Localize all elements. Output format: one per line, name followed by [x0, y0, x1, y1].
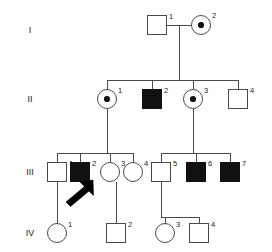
female-circle-unaffected[interactable] — [156, 224, 175, 243]
generation-label-I: I — [29, 25, 32, 35]
individual-III-6[interactable]: 6 — [187, 159, 213, 182]
individual-II-1[interactable]: 1 — [98, 86, 123, 109]
female-circle-unaffected[interactable] — [48, 224, 67, 243]
generation-labels: I II III IV — [26, 25, 35, 238]
individual-IV-3[interactable]: 3 — [156, 220, 181, 243]
male-square-unaffected[interactable] — [107, 224, 126, 243]
individual-II-3[interactable]: 3 — [184, 86, 209, 109]
individual-II-4[interactable]: 4 — [229, 86, 255, 109]
individual-id-label: 1 — [68, 220, 72, 229]
individual-id-label: 4 — [144, 159, 148, 168]
male-square-affected[interactable] — [187, 163, 206, 182]
female-circle-unaffected[interactable] — [101, 163, 120, 182]
individual-id-label: 3 — [204, 86, 208, 95]
individual-II-2[interactable]: 2 — [143, 86, 169, 109]
individual-id-label: 1 — [118, 86, 122, 95]
pedigree-chart: I II III IV 1 2 1 — [0, 0, 272, 252]
individual-id-label: 2 — [164, 86, 168, 95]
individual-id-label: 3 — [176, 220, 180, 229]
individual-III-3[interactable]: 3 — [101, 159, 126, 182]
individual-id-label: 6 — [208, 159, 212, 168]
individual-id-label: 4 — [211, 220, 215, 229]
pedigree-diagram: I II III IV 1 2 1 — [0, 0, 272, 252]
individual-id-label: 2 — [128, 220, 132, 229]
individual-III-7[interactable]: 7 — [221, 159, 247, 182]
male-square-unaffected[interactable] — [48, 163, 67, 182]
individual-III-4[interactable]: 4 — [124, 159, 149, 182]
female-circle-unaffected[interactable] — [124, 163, 143, 182]
male-square-affected[interactable] — [143, 90, 162, 109]
individual-III-2[interactable]: 2 — [71, 159, 97, 182]
individual-IV-1[interactable]: 1 — [48, 220, 73, 243]
individual-id-label: 2 — [92, 159, 96, 168]
generation-II-symbols: 1 2 3 4 — [98, 86, 255, 109]
individual-III-5[interactable]: 5 — [152, 159, 178, 182]
individual-id-label: 4 — [250, 86, 254, 95]
individual-id-label: 7 — [242, 159, 246, 168]
carrier-dot-icon — [104, 96, 110, 102]
proband-arrow-group — [66, 180, 94, 207]
male-square-affected-proband[interactable] — [71, 163, 90, 182]
male-square-affected[interactable] — [221, 163, 240, 182]
individual-III-1[interactable]: 1 — [48, 159, 74, 182]
male-square-unaffected[interactable] — [190, 224, 209, 243]
individual-I-1[interactable]: 1 — [148, 12, 174, 35]
generation-I-symbols: 1 2 — [148, 11, 217, 35]
generation-III-symbols: 1 2 3 4 5 6 7 — [48, 159, 247, 182]
carrier-dot-icon — [190, 96, 196, 102]
individual-id-label: 1 — [169, 12, 173, 21]
individual-IV-4[interactable]: 4 — [190, 220, 216, 243]
proband-arrow-icon — [66, 180, 94, 207]
individual-id-label: 5 — [173, 159, 177, 168]
generation-IV-symbols: 1 2 3 4 — [48, 220, 216, 243]
generation-label-IV: IV — [26, 228, 35, 238]
carrier-dot-icon — [198, 22, 204, 28]
generation-label-III: III — [26, 167, 34, 177]
individual-id-label: 3 — [121, 159, 125, 168]
male-square-unaffected[interactable] — [148, 16, 167, 35]
individual-id-label: 2 — [212, 11, 216, 20]
generation-label-II: II — [27, 94, 32, 104]
individual-I-2[interactable]: 2 — [192, 11, 217, 35]
individual-IV-2[interactable]: 2 — [107, 220, 133, 243]
male-square-unaffected[interactable] — [152, 163, 171, 182]
male-square-unaffected[interactable] — [229, 90, 248, 109]
